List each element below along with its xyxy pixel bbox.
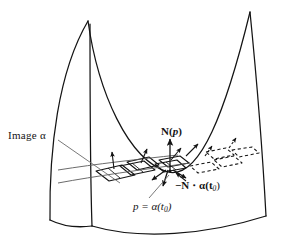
normal-arrows-dashed bbox=[205, 138, 236, 156]
surface-bottom-left-edge bbox=[50, 220, 92, 227]
label-minus-normal-close: ) bbox=[216, 179, 220, 191]
normal-arrow-3 bbox=[171, 148, 181, 160]
dashed-tangent-planes bbox=[190, 147, 259, 173]
surface-left-crease bbox=[90, 24, 92, 226]
label-minus-normal-main: −N ⋅ α(t bbox=[175, 179, 213, 191]
differential-geometry-figure: Image α N(p) −N ⋅ α(t0) p = α(t0) bbox=[0, 0, 282, 243]
label-normal-at-p: N(p) bbox=[161, 126, 182, 137]
surface-left-silhouette bbox=[50, 21, 88, 220]
leader-image-alpha bbox=[58, 140, 120, 183]
surface-bottom-front-edge bbox=[92, 216, 266, 234]
label-normal-at-p-bold: N bbox=[161, 125, 169, 137]
label-p-equals-alpha: p = α(t0) bbox=[133, 201, 171, 214]
dashed-tangent-plane-1 bbox=[190, 162, 219, 173]
label-normal-at-p-close: ) bbox=[178, 125, 182, 137]
leader-lines bbox=[58, 140, 186, 198]
label-p-equals-alpha-close: ) bbox=[168, 200, 172, 212]
tangent-arrow-at-p-left bbox=[152, 170, 166, 180]
label-minus-normal-dot-alpha: −N ⋅ α(t0) bbox=[175, 180, 220, 193]
leader-point-p bbox=[149, 175, 169, 198]
dashed-tangent-plane-4 bbox=[232, 147, 259, 157]
label-image-alpha: Image α bbox=[8, 130, 46, 141]
dashed-tangent-plane-3 bbox=[206, 148, 234, 159]
surface-right-silhouette bbox=[250, 12, 266, 216]
dashed-normal-arrow-2 bbox=[229, 138, 236, 148]
label-p-equals-alpha-main: p = α(t bbox=[133, 200, 164, 212]
normal-arrow-1 bbox=[112, 152, 114, 169]
point-p-marker bbox=[169, 170, 172, 173]
normal-arrow-4 bbox=[186, 144, 198, 156]
